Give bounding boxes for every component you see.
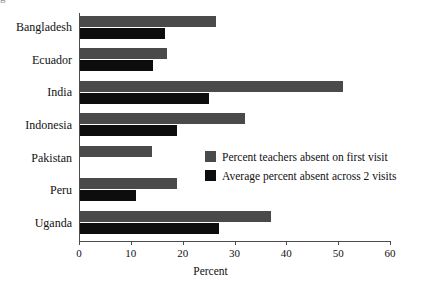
bar <box>80 223 219 234</box>
chart-legend: Percent teachers absent on first visit A… <box>205 148 415 186</box>
legend-label-average: Average percent absent across 2 visits <box>222 170 396 182</box>
x-tick <box>235 241 236 245</box>
legend-swatch-grey <box>205 151 216 162</box>
bar <box>80 211 271 222</box>
x-tick-label: 20 <box>177 247 188 259</box>
category-label: Uganda <box>0 215 72 230</box>
legend-swatch-black <box>205 170 216 181</box>
x-tick-label: 10 <box>125 247 136 259</box>
category-label: Ecuador <box>0 52 72 67</box>
bar <box>80 146 152 157</box>
bar <box>80 16 216 27</box>
bar <box>80 81 343 92</box>
x-tick-label: 30 <box>229 247 240 259</box>
x-tick <box>286 241 287 245</box>
x-tick <box>338 241 339 245</box>
x-tick <box>131 241 132 245</box>
category-label: Indonesia <box>0 118 72 133</box>
legend-item-average: Average percent absent across 2 visits <box>205 167 415 184</box>
bar <box>80 178 177 189</box>
x-tick <box>79 241 80 245</box>
bar <box>80 125 177 136</box>
x-tick-label: 0 <box>76 247 82 259</box>
bar <box>80 93 209 104</box>
legend-item-first-visit: Percent teachers absent on first visit <box>205 148 415 165</box>
category-label: Bangladesh <box>0 20 72 35</box>
x-axis-label: Percent <box>0 265 421 277</box>
category-label: India <box>0 85 72 100</box>
x-tick <box>390 241 391 245</box>
x-tick-label: 60 <box>385 247 396 259</box>
bar <box>80 60 153 71</box>
legend-label-first-visit: Percent teachers absent on first visit <box>222 151 388 163</box>
bar <box>80 190 136 201</box>
bar <box>80 113 245 124</box>
bar-chart-figure: g 0102030405060 BangladeshEcuadorIndiaIn… <box>0 0 421 286</box>
category-label: Pakistan <box>0 150 72 165</box>
x-tick-label: 40 <box>281 247 292 259</box>
x-tick-label: 50 <box>333 247 344 259</box>
bar <box>80 28 165 39</box>
bar <box>80 48 167 59</box>
x-tick <box>183 241 184 245</box>
cropped-title-fragment: g <box>0 0 421 3</box>
category-label: Peru <box>0 183 72 198</box>
